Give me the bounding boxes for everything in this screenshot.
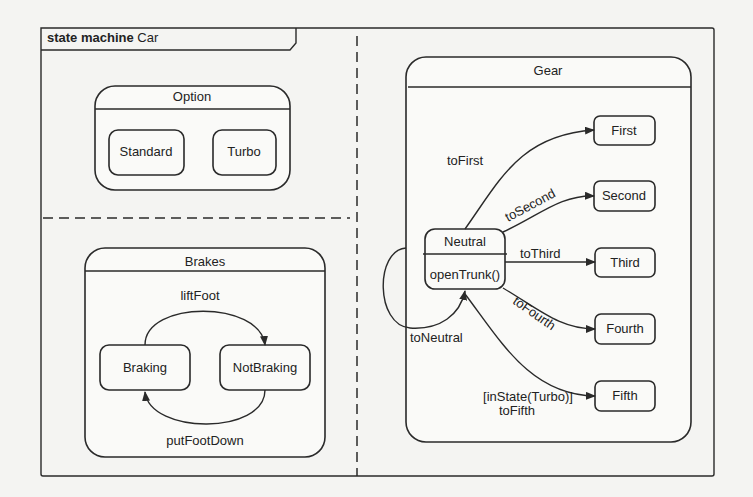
transition-tofirst-label: toFirst <box>447 153 484 168</box>
transition-toneutral-label: toNeutral <box>410 330 463 345</box>
svg-text:Fourth: Fourth <box>606 321 644 336</box>
state-notbraking[interactable]: NotBraking <box>220 345 310 390</box>
frame-title: state machine Car <box>47 30 159 45</box>
neutral-name: Neutral <box>444 234 486 249</box>
svg-text:Third: Third <box>610 255 640 270</box>
state-machine-diagram: state machine Car Option Standard Turbo … <box>0 0 753 497</box>
transition-liftfoot-label: liftFoot <box>180 288 219 303</box>
state-standard[interactable]: Standard <box>109 130 184 175</box>
state-third[interactable]: Third <box>595 248 655 277</box>
transition-tofifth-guard: [inState(Turbo)] <box>483 389 573 404</box>
svg-text:Fifth: Fifth <box>612 388 637 403</box>
option-title: Option <box>173 89 211 104</box>
svg-text:Braking: Braking <box>123 360 167 375</box>
state-neutral[interactable]: Neutral openTrunk() <box>423 229 507 289</box>
neutral-action: openTrunk() <box>430 267 500 282</box>
state-fifth[interactable]: Fifth <box>595 381 655 411</box>
brakes-title: Brakes <box>185 254 226 269</box>
state-turbo[interactable]: Turbo <box>213 130 276 175</box>
state-first[interactable]: First <box>594 116 655 145</box>
svg-text:First: First <box>611 123 637 138</box>
svg-text:NotBraking: NotBraking <box>233 360 297 375</box>
svg-text:Standard: Standard <box>120 144 173 159</box>
svg-text:Second: Second <box>602 188 646 203</box>
transition-tothird-label: toThird <box>520 246 560 261</box>
transition-putfootdown-label: putFootDown <box>166 433 243 448</box>
state-second[interactable]: Second <box>594 181 655 211</box>
state-fourth[interactable]: Fourth <box>595 314 655 344</box>
svg-text:Turbo: Turbo <box>227 144 260 159</box>
state-braking[interactable]: Braking <box>100 345 190 390</box>
gear-title: Gear <box>534 63 564 78</box>
transition-tofifth-label: toFifth <box>499 403 535 418</box>
